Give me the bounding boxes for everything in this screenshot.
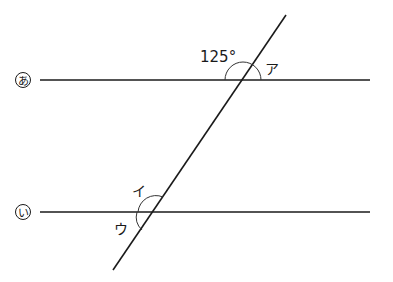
svg-text:あ: あ (18, 75, 29, 88)
svg-text:い: い (18, 207, 29, 220)
label-i-circled: い (16, 205, 31, 220)
parallel-lines-diagram: あ い 125° ア イ ウ (0, 0, 393, 282)
label-a-circled: あ (16, 73, 31, 88)
given-angle-label: 125° (200, 48, 236, 66)
angle-label-i: イ (132, 183, 146, 199)
angle-label-u: ウ (114, 221, 128, 237)
angle-label-a: ア (265, 61, 279, 77)
